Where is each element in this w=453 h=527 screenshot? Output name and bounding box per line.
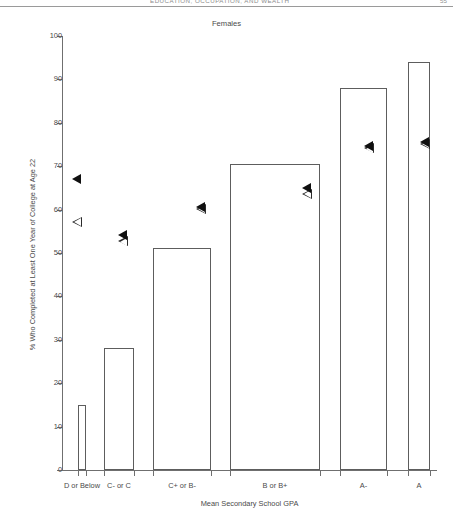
bar-a xyxy=(408,62,430,470)
bar-c-or-b xyxy=(153,248,211,470)
x-axis-line xyxy=(62,470,437,471)
chart-plot-area: 0102030405060708090100 % Who Completed a… xyxy=(0,0,453,527)
x-axis-tick xyxy=(340,471,341,476)
x-axis-label-a: A xyxy=(417,481,422,490)
x-axis-tick xyxy=(408,471,409,476)
filled-triangle-marker xyxy=(72,174,81,184)
x-axis-tick xyxy=(320,471,321,476)
x-axis-tick xyxy=(86,471,87,476)
y-axis-tick-label: 100 xyxy=(10,31,62,40)
open-triangle-marker-inner xyxy=(74,218,81,226)
x-axis-tick xyxy=(430,471,431,476)
x-axis-title: Mean Secondary School GPA xyxy=(62,499,437,508)
bar-d-or-below xyxy=(78,405,86,470)
x-axis-tick xyxy=(211,471,212,476)
y-axis-tick-label: 0 xyxy=(10,465,62,474)
x-axis-label-a: A- xyxy=(360,481,367,490)
bar-b-or-b xyxy=(230,164,320,470)
x-axis-label-b-or-b: B or B+ xyxy=(263,481,288,490)
x-axis-tick xyxy=(153,471,154,476)
x-axis-tick xyxy=(134,471,135,476)
y-axis-title: % Who Completed at Least One Year of Col… xyxy=(28,45,37,465)
filled-triangle-marker xyxy=(364,141,373,151)
filled-triangle-marker xyxy=(196,202,205,212)
x-axis-tick xyxy=(78,471,79,476)
filled-triangle-marker xyxy=(420,137,429,147)
x-axis-tick xyxy=(230,471,231,476)
y-axis-line xyxy=(62,36,63,471)
x-axis-tick xyxy=(104,471,105,476)
x-axis-label-d-or-below: D or Below xyxy=(64,481,100,490)
x-axis-label-c-or-b: C+ or B- xyxy=(168,481,196,490)
x-axis-label-c-or-c: C- or C xyxy=(107,481,131,490)
x-axis-tick xyxy=(387,471,388,476)
filled-triangle-marker xyxy=(118,230,127,240)
filled-triangle-marker xyxy=(302,183,311,193)
bar-c-or-c xyxy=(104,348,134,470)
